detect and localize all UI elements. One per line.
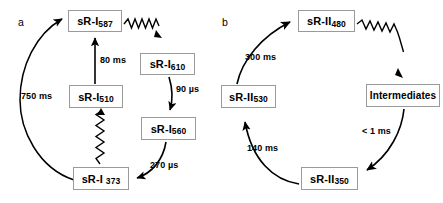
figure-canvas: a b <box>0 0 443 203</box>
node-label-subscript: 480 <box>331 19 345 29</box>
node-label-base: sR-I <box>150 58 171 70</box>
time-label-300ms: 300 ms <box>245 52 276 62</box>
time-label-750ms: 750 ms <box>21 91 52 101</box>
node-label-subscript: 510 <box>99 94 113 104</box>
node-label-base: sR-I <box>82 173 106 185</box>
node-label-subscript: 610 <box>171 62 185 72</box>
node-sr-ii-480[interactable]: sR-II480 <box>298 10 355 32</box>
node-sr-i-560[interactable]: sR-I560 <box>141 117 196 140</box>
node-sr-ii-350[interactable]: sR-II350 <box>301 167 358 190</box>
time-label-80ms: 80 ms <box>100 55 126 65</box>
node-label-subscript: 373 <box>106 176 120 186</box>
node-intermediates[interactable]: Intermediates <box>366 84 440 107</box>
arrow-140ms <box>245 122 299 184</box>
node-label-subscript: 560 <box>172 126 186 136</box>
node-label-subscript: 530 <box>253 94 267 104</box>
node-label-subscript: 350 <box>334 176 348 186</box>
squiggle-480-to-intermediates <box>357 20 404 78</box>
node-label-base: Intermediates <box>370 90 436 101</box>
time-label-140ms: 140 ms <box>247 143 278 153</box>
node-sr-ii-530[interactable]: sR-II530 <box>221 85 276 108</box>
node-label-base: sR-I <box>78 91 99 103</box>
arrow-lt1ms <box>367 109 404 170</box>
time-label-lt-1ms: < 1 ms <box>362 126 391 136</box>
time-label-90us: 90 µs <box>176 84 199 94</box>
panel-a-letter: a <box>18 16 24 28</box>
node-label-base: sR-I <box>151 123 172 135</box>
time-label-270us: 270 µs <box>150 160 178 170</box>
node-sr-i-610[interactable]: sR-I610 <box>140 53 195 75</box>
node-sr-i-587[interactable]: sR-I587 <box>68 10 122 32</box>
node-label-base: sR-II <box>310 173 334 185</box>
arrow-90us <box>169 77 172 110</box>
node-label-base: sR-I <box>77 15 98 27</box>
node-label-subscript: 587 <box>98 19 112 29</box>
squiggle-587-to-610 <box>124 19 162 38</box>
node-sr-i-373[interactable]: sR-I373 <box>73 167 129 190</box>
panel-b-letter: b <box>222 16 228 28</box>
node-label-base: sR-II <box>307 15 331 27</box>
node-label-base: sR-II <box>229 91 253 103</box>
node-sr-i-510[interactable]: sR-I510 <box>69 85 123 108</box>
squiggle-373-to-510 <box>96 108 105 164</box>
